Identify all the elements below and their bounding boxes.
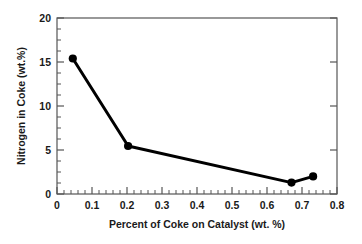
x-tick-label-06: 0.6 — [260, 199, 275, 211]
x-tick-label-05: 0.5 — [225, 199, 240, 211]
data-line — [73, 59, 313, 183]
x-tick-label-03: 0.3 — [155, 199, 170, 211]
data-points — [69, 54, 318, 186]
x-axis-title: Percent of Coke on Catalyst (wt. %) — [109, 218, 285, 230]
y-tick-label-5: 5 — [45, 144, 51, 156]
data-point — [309, 172, 317, 180]
chart-figure: 0 5 10 15 20 0 0.1 0.2 0.3 0.4 0.5 0.6 0… — [0, 0, 362, 244]
x-tick-label-0: 0 — [54, 199, 60, 211]
right-axis-ticks — [330, 18, 337, 194]
x-tick-label-07: 0.7 — [295, 199, 310, 211]
y-tick-label-10: 10 — [39, 100, 51, 112]
y-axis-major-ticks — [57, 18, 64, 194]
x-tick-label-04: 0.4 — [190, 199, 205, 211]
x-tick-label-02: 0.2 — [120, 199, 135, 211]
y-axis-title: Nitrogen in Coke (wt.%) — [15, 47, 27, 165]
plot-frame — [57, 18, 337, 194]
data-point — [287, 179, 295, 187]
x-tick-label-01: 0.1 — [85, 199, 100, 211]
x-tick-label-08: 0.8 — [330, 199, 345, 211]
line-chart: 0 5 10 15 20 0 0.1 0.2 0.3 0.4 0.5 0.6 0… — [0, 0, 362, 244]
y-tick-label-15: 15 — [39, 56, 51, 68]
y-tick-label-0: 0 — [45, 188, 51, 200]
y-tick-label-20: 20 — [39, 12, 51, 24]
data-point — [124, 142, 132, 150]
data-point — [69, 54, 77, 62]
